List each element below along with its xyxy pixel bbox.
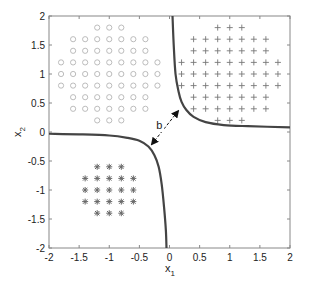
asterisk-marker: [118, 164, 124, 170]
x-tick-label: -1.5: [71, 252, 89, 263]
asterisk-marker: [106, 199, 112, 205]
asterisk-marker: [94, 164, 100, 170]
y-axis-label: x2: [11, 127, 27, 138]
x-axis-label: x1: [165, 262, 176, 278]
y-tick-label: -0.5: [28, 156, 46, 167]
x-tick-label: 1.5: [253, 252, 267, 263]
asterisk-marker: [106, 164, 112, 170]
x-tick-label: -1: [105, 252, 114, 263]
y-tick-label: 0: [39, 127, 45, 138]
asterisk-marker: [118, 175, 124, 181]
asterisk-marker: [118, 187, 124, 193]
asterisk-marker: [106, 175, 112, 181]
y-tick-label: 1: [39, 69, 45, 80]
asterisk-marker: [82, 187, 88, 193]
asterisk-marker: [118, 199, 124, 205]
asterisk-marker: [82, 175, 88, 181]
x-tick-label: -0.5: [131, 252, 149, 263]
y-tick-label: 2: [39, 11, 45, 22]
y-tick-label: -2: [36, 243, 45, 254]
y-tick-label: 0.5: [31, 98, 45, 109]
y-tick-label: 1.5: [31, 40, 45, 51]
asterisk-marker: [94, 187, 100, 193]
chart: -2-1.5-1-0.500.511.52 -2-1.5-1-0.500.511…: [0, 0, 309, 285]
asterisk-marker: [106, 210, 112, 216]
asterisk-marker: [130, 187, 136, 193]
y-tick-label: -1.5: [28, 214, 46, 225]
x-tick-label: 1: [227, 252, 233, 263]
asterisk-marker: [94, 175, 100, 181]
annotation-label: b: [156, 119, 162, 131]
x-tick-label: 0.5: [193, 252, 207, 263]
x-tick-label: 2: [287, 252, 293, 263]
x-tick-label: -2: [45, 252, 54, 263]
asterisk-marker: [94, 210, 100, 216]
asterisk-marker: [130, 175, 136, 181]
asterisk-marker: [130, 199, 136, 205]
asterisk-marker: [106, 187, 112, 193]
asterisk-marker: [82, 199, 88, 205]
y-tick-label: -1: [36, 185, 45, 196]
asterisk-marker: [94, 199, 100, 205]
asterisk-marker: [118, 210, 124, 216]
y-tick-labels: -2-1.5-1-0.500.511.52: [28, 11, 46, 254]
